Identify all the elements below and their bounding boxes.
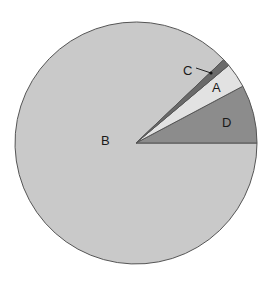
label-c: C [183,63,192,78]
label-a: A [212,80,221,95]
pie-chart: B D A C [0,0,272,283]
label-c-leader-dot [209,71,212,74]
label-d: D [222,115,231,130]
pie-slices [15,22,257,264]
label-b: B [101,133,110,148]
